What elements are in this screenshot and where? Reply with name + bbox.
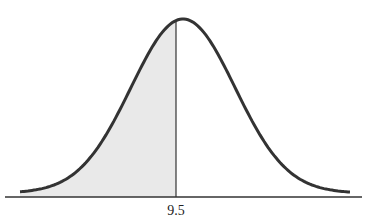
normal-curve-chart (0, 0, 368, 223)
bell-curve (20, 19, 350, 192)
tick-label-9-5: 9.5 (167, 203, 185, 219)
